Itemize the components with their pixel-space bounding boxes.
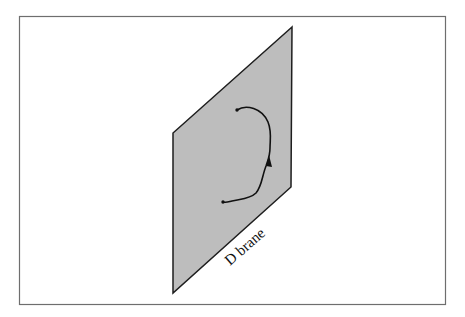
string-endpoint-top [235, 108, 238, 111]
d-brane-diagram: D brane [0, 0, 465, 317]
string-endpoint-bottom [221, 200, 224, 203]
